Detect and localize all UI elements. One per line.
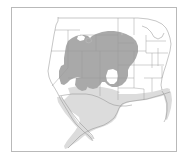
- map-frame: [11, 7, 177, 152]
- core-range-interior-gap: [106, 69, 118, 84]
- range-map: [12, 8, 176, 151]
- figure-container: Core range Secondary range: [0, 0, 192, 160]
